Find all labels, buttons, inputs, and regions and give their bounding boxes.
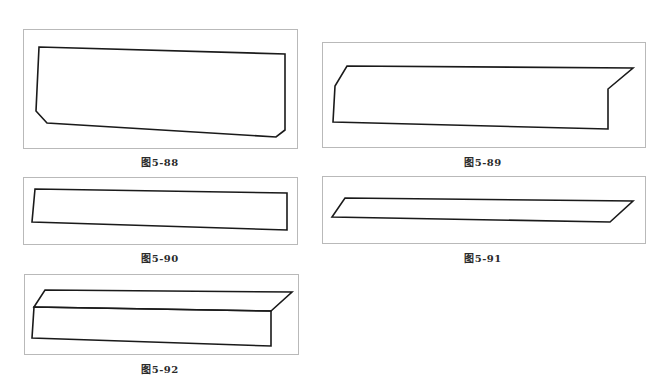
figure-caption: 图5-92	[120, 361, 200, 376]
shape-outline	[32, 307, 271, 346]
figure-drawing-fig-5-92	[0, 0, 662, 381]
